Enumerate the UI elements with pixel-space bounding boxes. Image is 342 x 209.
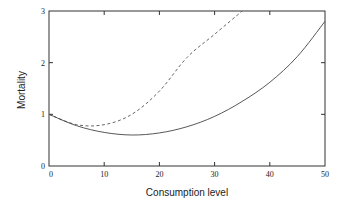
x-tick-label: 50 (321, 170, 329, 179)
y-tick-labels: 0123 (41, 7, 45, 171)
x-tick-label: 40 (266, 170, 274, 179)
plot-frame (49, 11, 325, 166)
x-tick-label: 20 (155, 170, 163, 179)
y-axis-label: Mortality (16, 71, 27, 109)
axis-ticks (49, 11, 325, 166)
x-tick-label: 0 (49, 170, 53, 179)
x-tick-label: 30 (211, 170, 219, 179)
x-tick-labels: 01020304050 (49, 170, 329, 179)
y-tick-label: 3 (41, 7, 45, 16)
y-tick-label: 1 (41, 110, 45, 119)
y-tick-label: 0 (41, 162, 45, 171)
dashed-curve (49, 11, 242, 126)
x-axis-label: Consumption level (146, 187, 228, 198)
x-tick-label: 10 (100, 170, 108, 179)
chart: 01020304050 0123 Consumption level Morta… (0, 0, 342, 209)
y-tick-label: 2 (41, 59, 45, 68)
solid-curve (49, 21, 325, 135)
